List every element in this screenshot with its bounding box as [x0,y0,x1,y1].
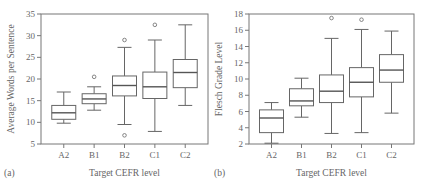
box-b2 [113,38,137,137]
box-c1 [143,23,167,131]
box-c1 [350,18,374,133]
y-tick-label: 6 [239,107,244,117]
chart-panel-a: 5101520253035A2B1B2C1C2Target CEFR level… [4,9,208,179]
y-axis-label: Flesch Grade Level [214,41,224,116]
box-b1 [290,78,314,117]
y-tick-label: 15 [26,96,36,106]
x-tick-label: C2 [386,150,397,160]
x-tick-label: B1 [296,150,307,160]
x-tick-label: C2 [180,150,191,160]
iqr-box [320,75,344,103]
chart-panel-b: 24681012141618A2B1B2C1C2Target CEFR leve… [214,9,414,179]
y-tick-label: 25 [26,52,36,62]
y-tick-label: 4 [239,123,244,133]
iqr-box [143,72,167,98]
box-a2 [260,103,284,144]
iqr-box [173,60,197,88]
box-c2 [380,31,404,113]
y-tick-label: 5 [31,139,36,149]
y-tick-label: 35 [26,9,36,19]
y-axis-label: Average Words per Sentence [6,24,16,133]
iqr-box [290,89,314,106]
panel-label: (b) [214,168,225,179]
y-tick-label: 14 [234,42,244,52]
panel-label: (a) [4,168,15,179]
y-tick-label: 18 [234,9,244,19]
x-tick-label: B2 [326,150,337,160]
iqr-box [260,110,284,133]
iqr-box [380,55,404,83]
y-tick-label: 8 [239,90,244,100]
y-tick-label: 30 [26,31,36,41]
x-axis-label: Target CEFR level [89,168,160,178]
x-tick-label: A2 [58,150,69,160]
x-tick-label: C1 [150,150,161,160]
outlier-point [153,23,157,27]
box-plot-figure: 5101520253035A2B1B2C1C2Target CEFR level… [0,0,421,184]
x-axis-label: Target CEFR level [296,168,367,178]
outlier-point [360,18,364,22]
box-b2 [320,16,344,133]
box-b1 [82,75,106,110]
x-tick-label: C1 [356,150,367,160]
outlier-point [123,38,127,42]
x-tick-label: B2 [119,150,130,160]
outlier-point [330,16,334,20]
outlier-point [92,75,96,79]
box-a2 [52,92,76,123]
y-tick-label: 16 [234,25,244,35]
x-tick-label: B1 [89,150,100,160]
y-tick-label: 10 [26,117,36,127]
y-tick-label: 20 [26,74,36,84]
outlier-point [123,134,127,138]
y-tick-label: 2 [239,139,244,149]
y-tick-label: 10 [234,74,244,84]
x-tick-label: A2 [266,150,277,160]
y-tick-label: 12 [234,58,243,68]
box-c2 [173,25,197,106]
